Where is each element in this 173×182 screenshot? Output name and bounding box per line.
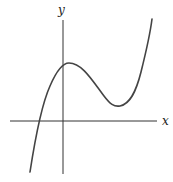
cubic-function-graph: x y [0, 0, 173, 182]
x-axis-label: x [162, 114, 169, 128]
y-axis-label: y [57, 3, 65, 17]
cubic-curve [30, 19, 152, 172]
